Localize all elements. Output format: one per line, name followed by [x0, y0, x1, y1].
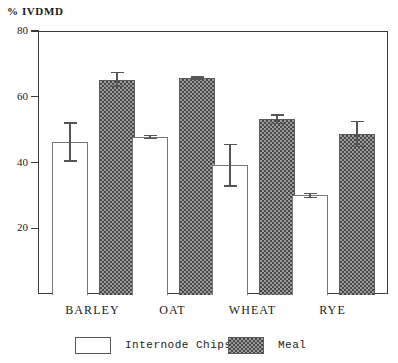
ivdmd-bar-chart: % IVDMD 80604020 BARLEYOATWHEATRYE Inter…: [0, 0, 398, 363]
y-axis-title: % IVDMD: [7, 5, 63, 17]
error-bar-cap-bottom: [304, 197, 317, 198]
error-bar-oat-meal: [179, 76, 215, 79]
error-bar-cap-bottom: [224, 185, 237, 186]
error-bar-cap-top: [111, 72, 124, 73]
error-bar-stem: [356, 121, 357, 147]
error-bar-cap-top: [271, 114, 284, 115]
error-bar-cap-bottom: [144, 138, 157, 139]
y-axis-tick-label: 60: [2, 91, 28, 102]
error-bar-cap-top: [64, 122, 77, 123]
error-bar-cap-bottom: [351, 146, 364, 147]
y-axis-tick-label-wrap: 80: [0, 25, 28, 36]
error-bar-cap-top: [144, 135, 157, 136]
plot-area: [38, 31, 388, 294]
legend-label-meal: Meal: [278, 339, 306, 351]
error-bar-rye-meal: [339, 121, 375, 147]
error-bar-barley-chips: [52, 122, 88, 161]
error-bar-cap-top: [224, 144, 237, 145]
bar-oat-chips: [132, 137, 168, 295]
legend-swatch-meal: [228, 337, 264, 354]
bar-oat-meal: [179, 78, 215, 295]
error-bar-wheat-chips: [212, 144, 248, 187]
y-axis-tick-label: 80: [2, 25, 28, 36]
legend-entry-chips: Internode Chips: [75, 335, 232, 355]
error-bar-oat-chips: [132, 135, 168, 140]
bar-rye-chips: [292, 195, 328, 295]
error-bar-cap-bottom: [111, 86, 124, 87]
chart-legend: Internode ChipsMeal: [0, 335, 398, 359]
error-bar-barley-meal: [99, 72, 135, 87]
error-bar-cap-top: [351, 121, 364, 122]
legend-entry-meal: Meal: [228, 335, 306, 355]
x-axis-label-rye: RYE: [269, 303, 396, 318]
legend-swatch-chips: [75, 337, 111, 354]
y-axis-tick-label-wrap: 60: [0, 91, 28, 102]
legend-label-chips: Internode Chips: [125, 339, 232, 351]
y-axis-tick-label-wrap: 40: [0, 157, 28, 168]
error-bar-stem: [229, 144, 230, 187]
bar-wheat-meal: [259, 119, 295, 295]
bar-barley-meal: [99, 80, 135, 295]
error-bar-cap-bottom: [64, 160, 77, 161]
bar-rye-meal: [339, 134, 375, 295]
error-bar-cap-bottom: [191, 78, 204, 79]
error-bar-stem: [69, 122, 70, 161]
error-bar-cap-top: [304, 193, 317, 194]
bar-barley-chips: [52, 142, 88, 295]
error-bar-wheat-meal: [259, 114, 295, 124]
y-axis-tick-label: 40: [2, 157, 28, 168]
y-axis-tick-label: 20: [2, 222, 28, 233]
error-bar-cap-bottom: [271, 123, 284, 124]
error-bar-rye-chips: [292, 193, 328, 198]
y-axis-tick-label-wrap: 20: [0, 222, 28, 233]
